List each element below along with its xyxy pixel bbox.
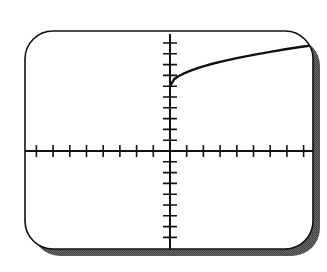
function-plot (0, 0, 327, 272)
graph-screen (0, 0, 327, 272)
